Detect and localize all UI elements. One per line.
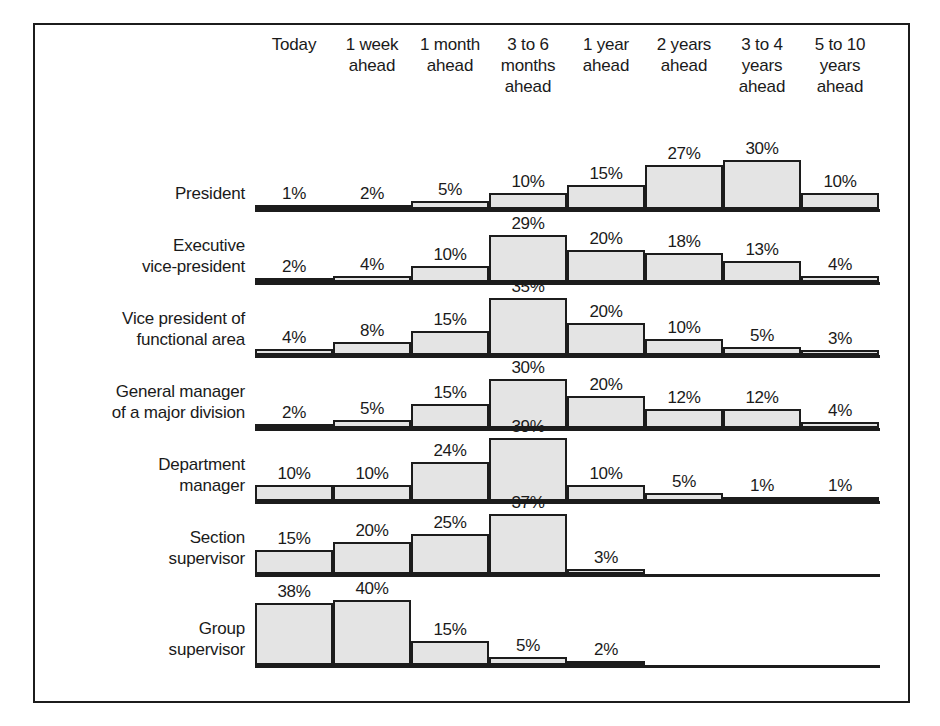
- bar-value-r2-c3: 35%: [489, 277, 567, 296]
- bar-value-r4-c0: 10%: [255, 464, 333, 483]
- bar-r1-c0: [255, 278, 333, 282]
- bar-value-r4-c5: 5%: [645, 472, 723, 491]
- bar-r4-c0: [255, 485, 333, 501]
- bar-r1-c5: [645, 253, 723, 282]
- bar-r0-c3: [489, 193, 567, 209]
- bar-value-r1-c0: 2%: [255, 257, 333, 276]
- bar-r5-c1: [333, 542, 411, 574]
- bar-r3-c5: [645, 409, 723, 428]
- row-label-line: manager: [30, 475, 245, 496]
- bar-r2-c4: [567, 323, 645, 355]
- bar-r2-c0: [255, 349, 333, 355]
- row-baseline: [255, 355, 880, 358]
- row-baseline: [255, 209, 880, 212]
- row-label-5: Sectionsupervisor: [30, 527, 245, 569]
- chart-plot-area: President1%2%5%10%15%27%30%10%Executivev…: [0, 0, 940, 726]
- bar-value-r5-c2: 25%: [411, 513, 489, 532]
- bar-r5-c4: [567, 569, 645, 574]
- bar-value-r2-c0: 4%: [255, 328, 333, 347]
- bar-value-r6-c0: 38%: [255, 582, 333, 601]
- row-label-line: supervisor: [30, 548, 245, 569]
- bar-value-r6-c4: 2%: [567, 640, 645, 659]
- row-label-line: Group: [30, 618, 245, 639]
- bar-value-r1-c4: 20%: [567, 229, 645, 248]
- bar-r1-c1: [333, 276, 411, 282]
- bar-r0-c7: [801, 193, 879, 209]
- row-label-line: Section: [30, 527, 245, 548]
- bar-value-r4-c6: 1%: [723, 476, 801, 495]
- row-label-4: Departmentmanager: [30, 454, 245, 496]
- bar-value-r4-c7: 1%: [801, 476, 879, 495]
- bar-r2-c3: [489, 298, 567, 355]
- bar-value-r3-c4: 20%: [567, 375, 645, 394]
- bar-r4-c5: [645, 493, 723, 501]
- row-label-3: General managerof a major division: [30, 381, 245, 423]
- bar-value-r2-c6: 5%: [723, 326, 801, 345]
- row-baseline: [255, 428, 880, 431]
- bar-value-r3-c6: 12%: [723, 388, 801, 407]
- bar-r2-c1: [333, 342, 411, 355]
- row-label-6: Groupsupervisor: [30, 618, 245, 660]
- bar-value-r3-c2: 15%: [411, 383, 489, 402]
- bar-value-r3-c3: 30%: [489, 358, 567, 377]
- bar-r0-c4: [567, 185, 645, 209]
- bar-value-r6-c1: 40%: [333, 579, 411, 598]
- row-label-0: President: [30, 183, 245, 204]
- row-label-line: President: [30, 183, 245, 204]
- bar-r4-c7: [801, 497, 879, 501]
- bar-value-r1-c7: 4%: [801, 255, 879, 274]
- bar-value-r3-c0: 2%: [255, 403, 333, 422]
- bar-value-r3-c1: 5%: [333, 399, 411, 418]
- row-label-1: Executivevice-president: [30, 235, 245, 277]
- bar-r1-c6: [723, 261, 801, 282]
- bar-value-r1-c5: 18%: [645, 232, 723, 251]
- bar-r1-c3: [489, 235, 567, 282]
- bar-r3-c7: [801, 422, 879, 428]
- bar-r0-c0: [255, 205, 333, 209]
- chart-figure: Today1 weekahead1 monthahead3 to 6months…: [0, 0, 940, 726]
- bar-value-r4-c3: 39%: [489, 417, 567, 436]
- row-label-line: General manager: [30, 381, 245, 402]
- bar-value-r3-c7: 4%: [801, 401, 879, 420]
- row-label-line: supervisor: [30, 639, 245, 660]
- bar-value-r0-c7: 10%: [801, 172, 879, 191]
- bar-value-r0-c3: 10%: [489, 172, 567, 191]
- bar-value-r5-c4: 3%: [567, 548, 645, 567]
- bar-r5-c3: [489, 514, 567, 574]
- row-baseline: [255, 574, 880, 577]
- bar-r3-c2: [411, 404, 489, 428]
- bar-r2-c7: [801, 350, 879, 355]
- row-label-line: Department: [30, 454, 245, 475]
- bar-value-r4-c4: 10%: [567, 464, 645, 483]
- bar-r4-c4: [567, 485, 645, 501]
- bar-value-r1-c1: 4%: [333, 255, 411, 274]
- bar-r1-c4: [567, 250, 645, 282]
- bar-r6-c1: [333, 600, 411, 665]
- row-baseline: [255, 665, 880, 668]
- bar-r6-c0: [255, 603, 333, 665]
- row-label-line: Executive: [30, 235, 245, 256]
- bar-r5-c2: [411, 534, 489, 575]
- bar-r2-c5: [645, 339, 723, 355]
- row-label-line: of a major division: [30, 402, 245, 423]
- bar-value-r0-c1: 2%: [333, 184, 411, 203]
- row-baseline: [255, 282, 880, 285]
- bar-r6-c4: [567, 661, 645, 665]
- bar-r4-c3: [489, 438, 567, 501]
- bar-r0-c2: [411, 201, 489, 209]
- bar-value-r0-c5: 27%: [645, 144, 723, 163]
- bar-r6-c2: [411, 641, 489, 665]
- bar-value-r5-c3: 37%: [489, 493, 567, 512]
- bar-r3-c0: [255, 424, 333, 428]
- bar-value-r0-c4: 15%: [567, 164, 645, 183]
- bar-value-r4-c1: 10%: [333, 464, 411, 483]
- bar-value-r0-c2: 5%: [411, 180, 489, 199]
- bar-r0-c5: [645, 165, 723, 209]
- bar-r0-c6: [723, 160, 801, 209]
- row-label-line: vice-president: [30, 256, 245, 277]
- bar-value-r2-c5: 10%: [645, 318, 723, 337]
- bar-value-r5-c1: 20%: [333, 521, 411, 540]
- bar-value-r3-c5: 12%: [645, 388, 723, 407]
- bar-r2-c6: [723, 347, 801, 355]
- bar-value-r2-c4: 20%: [567, 302, 645, 321]
